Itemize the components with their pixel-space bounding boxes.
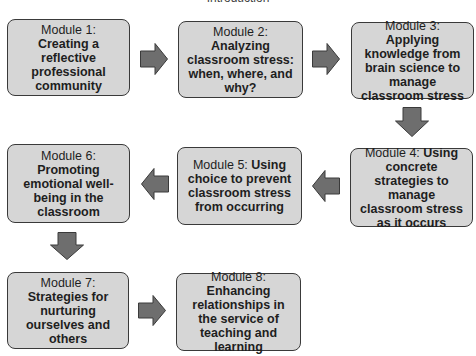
arrow-left-5-to-6 <box>141 168 169 200</box>
arrow-down-6-to-7 <box>50 232 84 260</box>
module-3-title: Applying knowledge from brain science to… <box>361 33 464 103</box>
arrow-down-icon <box>396 108 429 137</box>
module-8-box: Module 8: Enhancing relationships in the… <box>176 273 301 351</box>
arrow-right-icon <box>313 44 340 75</box>
module-6-title: Promoting emotional well-being in the cl… <box>23 163 113 219</box>
module-7-box: Module 7: Strategies for nurturing ourse… <box>7 272 129 349</box>
module-2-number: Module 2: <box>213 25 268 39</box>
module-4-number: Module 4: <box>365 146 423 160</box>
module-3-number: Module 3: <box>385 19 440 33</box>
arrow-right-7-to-8 <box>138 295 166 326</box>
module-2-box: Module 2: Analyzing classroom stress: wh… <box>178 21 303 98</box>
module-3-box: Module 3: Applying knowledge from brain … <box>351 22 474 99</box>
diagram-title: Introduction <box>0 0 476 5</box>
module-8-title: Enhancing relationships in the service o… <box>192 284 284 354</box>
arrow-down-icon <box>51 233 84 260</box>
module-6-number: Module 6: <box>41 149 96 163</box>
module-5-number: Module 5: <box>193 158 251 172</box>
arrow-right-1-to-2 <box>140 43 168 75</box>
module-1-title: Creating a reflective professional commu… <box>31 37 105 93</box>
arrow-right-2-to-3 <box>312 43 340 75</box>
module-2-title: Analyzing classroom stress: when, where,… <box>187 39 294 95</box>
arrow-left-icon <box>142 169 169 200</box>
module-6-box: Module 6: Promoting emotional well-being… <box>7 144 130 223</box>
arrow-left-icon <box>313 171 340 202</box>
module-7-number: Module 7: <box>41 276 96 290</box>
module-1-box: Module 1: Creating a reflective professi… <box>7 19 130 96</box>
module-1-number: Module 1: <box>41 23 96 37</box>
module-7-title: Strategies for nurturing ourselves and o… <box>26 290 110 346</box>
module-8-number: Module 8: <box>211 270 266 284</box>
arrow-right-icon <box>141 44 168 75</box>
module-4-box: Module 4: Using concrete strategies to m… <box>350 148 473 227</box>
arrow-left-4-to-5 <box>312 170 340 202</box>
module-5-box: Module 5: Using choice to prevent classr… <box>177 147 302 225</box>
arrow-right-icon <box>139 296 166 326</box>
arrow-down-3-to-4 <box>395 107 429 137</box>
